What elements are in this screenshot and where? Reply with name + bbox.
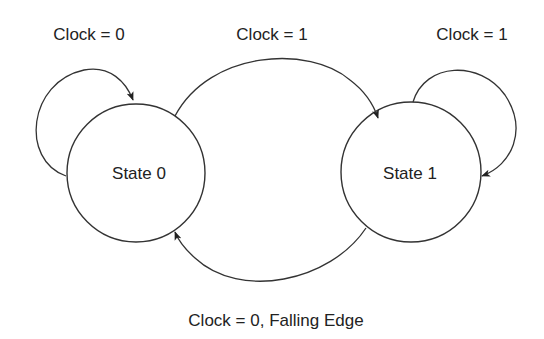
arrow-state1-to-state0 [175,228,366,281]
state-node-1: State 1 [341,102,481,242]
transition-state0-to-state1: Clock = 1 [175,25,378,118]
state-0-label: State 0 [112,164,166,183]
state-diagram: State 0 State 1 Clock = 0 Clock = 1 Cloc… [0,0,544,339]
transition-label-state1-to-state0: Clock = 0, Falling Edge [188,311,363,330]
arrow-state0-to-state1 [175,59,378,118]
transition-label-state1-self: Clock = 1 [436,25,507,44]
transition-label-state0-self: Clock = 0 [53,25,124,44]
transition-state1-to-state0: Clock = 0, Falling Edge [175,228,366,330]
self-loop-arrow-0 [36,69,133,176]
state-1-label: State 1 [383,164,437,183]
transition-state0-self: Clock = 0 [36,25,133,176]
transition-label-state0-to-state1: Clock = 1 [236,25,307,44]
self-loop-arrow-1 [413,70,516,176]
transition-state1-self: Clock = 1 [413,25,516,176]
state-node-0: State 0 [67,104,205,242]
